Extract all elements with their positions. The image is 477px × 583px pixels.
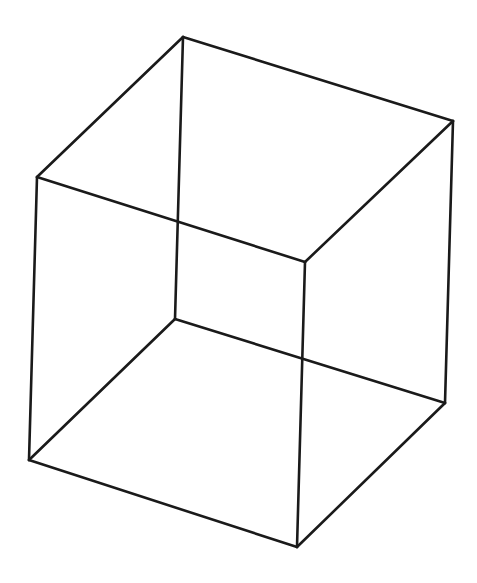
edge-top_front-bottom_front: [297, 262, 305, 547]
cube-edges: [29, 37, 453, 547]
edge-top_right-top_front: [305, 121, 453, 262]
edge-top_left-top_front: [37, 177, 305, 262]
edge-top_left-bottom_left: [29, 177, 37, 460]
edge-top_back-top_left: [37, 37, 183, 177]
edge-bottom_back-bottom_left: [29, 319, 175, 460]
edge-top_back-bottom_back: [175, 37, 183, 319]
edge-bottom_back-bottom_right: [175, 319, 445, 403]
edge-top_back-top_right: [183, 37, 453, 121]
edge-top_right-bottom_right: [445, 121, 453, 403]
edge-bottom_right-bottom_front: [297, 403, 445, 547]
necker-cube-diagram: [0, 0, 477, 583]
edge-bottom_left-bottom_front: [29, 460, 297, 547]
